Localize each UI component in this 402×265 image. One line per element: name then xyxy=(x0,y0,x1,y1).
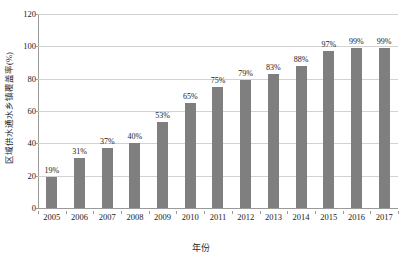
y-axis-tick-label: 60 xyxy=(14,107,36,116)
y-axis-tick-label: 80 xyxy=(14,74,36,83)
bar-chart: 区域供水通水乡镇覆盖率(%) 020406080100120 19%31%37%… xyxy=(0,0,402,265)
bar-value-label: 83% xyxy=(260,64,288,72)
x-axis-tick-mark xyxy=(204,211,205,214)
bar-group[interactable]: 40% xyxy=(121,14,149,208)
bar[interactable] xyxy=(296,66,307,208)
bar-group[interactable]: 37% xyxy=(93,14,121,208)
x-axis-tick-label: 2005 xyxy=(37,213,67,222)
x-axis-tick-label: 2006 xyxy=(65,213,95,222)
bar[interactable] xyxy=(74,158,85,208)
bar-value-label: 99% xyxy=(370,38,398,46)
y-axis-tick-label: 120 xyxy=(14,10,36,19)
x-axis-tick-mark xyxy=(38,211,39,214)
bar[interactable] xyxy=(129,143,140,208)
bar-value-label: 75% xyxy=(204,77,232,85)
bar-group[interactable]: 53% xyxy=(149,14,177,208)
bar-value-label: 53% xyxy=(149,112,177,120)
x-axis-tick-label: 2011 xyxy=(203,213,233,222)
x-axis-tick-mark xyxy=(232,211,233,214)
bar[interactable] xyxy=(157,122,168,208)
bar-value-label: 19% xyxy=(38,167,66,175)
x-axis-tick-mark xyxy=(66,211,67,214)
x-axis-tick-mark xyxy=(370,211,371,214)
x-axis-tick-label: 2013 xyxy=(258,213,288,222)
gridline xyxy=(38,208,398,209)
y-axis-tick-label: 40 xyxy=(14,139,36,148)
y-axis-tick-label: 20 xyxy=(14,171,36,180)
x-axis-tick-label: 2010 xyxy=(175,213,205,222)
x-axis-title: 年份 xyxy=(0,241,402,254)
bar[interactable] xyxy=(46,177,57,208)
y-axis-tick-label: 100 xyxy=(14,42,36,51)
bar-value-label: 88% xyxy=(287,56,315,64)
bar[interactable] xyxy=(185,103,196,208)
bar-value-label: 37% xyxy=(93,138,121,146)
bar[interactable] xyxy=(379,48,390,208)
x-axis-tick-label: 2008 xyxy=(120,213,150,222)
x-axis-tick-mark xyxy=(260,211,261,214)
bar[interactable] xyxy=(102,148,113,208)
x-axis-tick-mark xyxy=(93,211,94,214)
x-axis-tick-label: 2009 xyxy=(148,213,178,222)
bar-value-label: 79% xyxy=(232,70,260,78)
x-axis-tick-mark xyxy=(149,211,150,214)
bar-value-label: 40% xyxy=(121,133,149,141)
bar[interactable] xyxy=(212,87,223,208)
bar-group[interactable]: 75% xyxy=(204,14,232,208)
bar[interactable] xyxy=(240,80,251,208)
x-axis-tick-label: 2015 xyxy=(314,213,344,222)
x-axis-tick-mark xyxy=(315,211,316,214)
bar-group[interactable]: 79% xyxy=(232,14,260,208)
x-axis-tick-mark xyxy=(176,211,177,214)
bar[interactable] xyxy=(351,48,362,208)
bar-group[interactable]: 31% xyxy=(66,14,94,208)
x-axis-tick-label: 2014 xyxy=(286,213,316,222)
x-axis-tick-mark xyxy=(121,211,122,214)
bar-group[interactable]: 99% xyxy=(370,14,398,208)
bar-group[interactable]: 99% xyxy=(343,14,371,208)
bar-value-label: 31% xyxy=(66,148,94,156)
y-axis-tick-labels: 020406080100120 xyxy=(12,0,36,265)
x-axis-tick-mark xyxy=(343,211,344,214)
x-axis-tick-mark xyxy=(287,211,288,214)
bar-value-label: 97% xyxy=(315,41,343,49)
x-axis-tick-label: 2017 xyxy=(369,213,399,222)
bar-group[interactable]: 97% xyxy=(315,14,343,208)
x-axis-tick-label: 2012 xyxy=(231,213,261,222)
x-axis-tick-label: 2016 xyxy=(341,213,371,222)
bar[interactable] xyxy=(268,74,279,208)
x-axis-tick-mark xyxy=(398,211,399,214)
x-axis-tick-label: 2007 xyxy=(92,213,122,222)
bars-layer: 19%31%37%40%53%65%75%79%83%88%97%99%99% xyxy=(38,14,398,208)
bar-group[interactable]: 65% xyxy=(176,14,204,208)
bar-group[interactable]: 83% xyxy=(260,14,288,208)
y-axis-tick-label: 0 xyxy=(14,204,36,213)
bar-group[interactable]: 19% xyxy=(38,14,66,208)
bar-value-label: 65% xyxy=(176,93,204,101)
x-axis-tick-labels: 2005200620072008200920102011201220132014… xyxy=(38,211,398,227)
bar-value-label: 99% xyxy=(343,38,371,46)
bar-group[interactable]: 88% xyxy=(287,14,315,208)
bar[interactable] xyxy=(323,51,334,208)
